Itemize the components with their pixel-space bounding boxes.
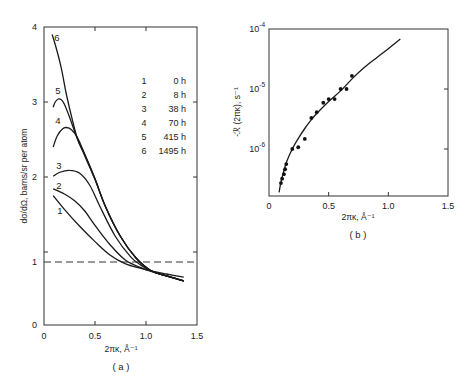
legend-entry-id: 4 xyxy=(141,118,146,128)
panel-b: 00.51.01.510-610-510-4 -ℛ (2πκ), s⁻¹ 2πκ… xyxy=(232,21,454,240)
legend-entry-label: 415 h xyxy=(163,132,186,142)
legend-entry-id: 2 xyxy=(141,90,146,100)
y-tick-label: 3 xyxy=(32,97,37,107)
curve-3 xyxy=(53,170,184,281)
fit-curve xyxy=(279,39,400,192)
panel-a-x-axis-title: 2πκ, Å⁻¹ xyxy=(104,344,137,354)
x-tick-label: 1.0 xyxy=(382,201,395,211)
panel-b-frame xyxy=(269,29,448,196)
data-point xyxy=(284,162,288,166)
figure-canvas: 00.51.01.501234 654321 10 h28 h338 h470 … xyxy=(0,0,469,389)
data-point xyxy=(339,87,343,91)
panel-b-y-axis-title: -ℛ (2πκ), s⁻¹ xyxy=(232,87,242,137)
curve-6 xyxy=(52,35,184,281)
legend-entry: 470 h xyxy=(141,118,186,128)
legend-entry: 5415 h xyxy=(141,132,186,142)
data-points xyxy=(279,74,354,185)
data-point xyxy=(290,147,294,151)
data-point xyxy=(309,116,313,120)
legend-entry-id: 3 xyxy=(141,104,146,114)
data-point xyxy=(345,87,349,91)
data-point xyxy=(315,110,319,114)
panel-a-curve-labels: 654321 xyxy=(54,32,62,217)
legend-entry-id: 5 xyxy=(141,132,146,142)
legend: 10 h28 h338 h470 h5415 h61495 h xyxy=(141,76,186,156)
x-tick-label: 0 xyxy=(41,331,46,341)
data-point xyxy=(333,97,337,101)
legend-entry-label: 8 h xyxy=(173,90,186,100)
y-tick-exponent: -4 xyxy=(259,21,265,28)
curve-2 xyxy=(53,189,184,281)
x-tick-label: 1.0 xyxy=(140,331,153,341)
x-tick-label: 1.5 xyxy=(442,201,455,211)
x-tick-label: 0.5 xyxy=(89,331,102,341)
legend-entry: 338 h xyxy=(141,104,186,114)
data-point xyxy=(283,167,287,171)
curve-label-2: 2 xyxy=(56,180,61,191)
legend-entry: 28 h xyxy=(141,90,186,100)
y-tick-label: 2 xyxy=(32,172,37,182)
data-point xyxy=(280,177,284,181)
curve-label-6: 6 xyxy=(54,32,59,43)
panel-b-ticks xyxy=(329,89,448,196)
x-tick-label: 0.5 xyxy=(322,201,335,211)
curve-label-1: 1 xyxy=(57,205,62,216)
y-tick-label: 10-4 xyxy=(249,21,265,34)
curve-label-4: 4 xyxy=(55,115,60,126)
data-point xyxy=(321,101,325,105)
data-point xyxy=(303,137,307,141)
curve-1 xyxy=(53,196,184,277)
legend-entry-id: 6 xyxy=(141,146,146,156)
x-tick-label: 0 xyxy=(266,201,271,211)
y-tick-label: 4 xyxy=(32,22,37,32)
legend-entry-id: 1 xyxy=(141,76,146,86)
legend-entry-label: 38 h xyxy=(168,104,186,114)
panel-a-y-axis-title: dσ/dΩ, barns/sr per atom xyxy=(19,129,29,224)
data-point xyxy=(282,172,286,176)
data-point xyxy=(279,181,283,185)
legend-entry: 61495 h xyxy=(141,146,186,156)
panel-a-frame xyxy=(44,27,197,325)
panel-b-label: ( b ) xyxy=(350,229,367,240)
panel-a-ticks xyxy=(44,27,197,325)
y-tick-label: 1 xyxy=(32,257,37,267)
panel-a-curves xyxy=(52,35,184,281)
x-tick-label: 1.5 xyxy=(191,331,204,341)
legend-entry-label: 1495 h xyxy=(158,146,186,156)
legend-entry-label: 0 h xyxy=(173,76,186,86)
panel-a: 00.51.01.501234 654321 10 h28 h338 h470 … xyxy=(19,22,203,372)
y-tick-exponent: -5 xyxy=(259,81,265,88)
y-tick-exponent: -6 xyxy=(259,141,265,148)
y-tick-label: 10-6 xyxy=(249,141,265,154)
legend-entry: 10 h xyxy=(141,76,186,86)
data-point xyxy=(350,74,354,78)
curve-label-5: 5 xyxy=(55,85,60,96)
data-point xyxy=(296,145,300,149)
y-tick-base: 10 xyxy=(249,84,259,94)
curve-label-3: 3 xyxy=(56,160,61,171)
y-tick-label: 0 xyxy=(32,320,37,330)
y-tick-label: 10-5 xyxy=(249,81,265,94)
data-point xyxy=(327,97,331,101)
panel-a-label: ( a ) xyxy=(113,361,130,372)
panel-b-x-axis-title: 2πκ, Å⁻¹ xyxy=(341,212,374,222)
legend-entry-label: 70 h xyxy=(168,118,186,128)
y-tick-base: 10 xyxy=(249,144,259,154)
y-tick-base: 10 xyxy=(249,24,259,34)
